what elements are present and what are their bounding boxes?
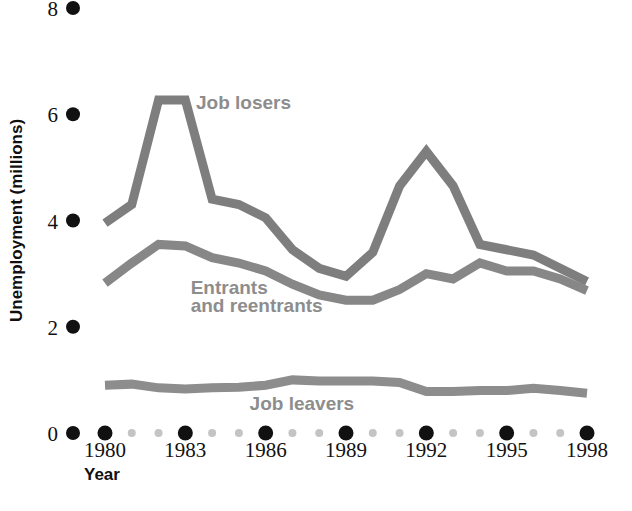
x-tick-dot-minor (396, 429, 404, 437)
x-tick-label: 1980 (84, 438, 126, 462)
x-tick-dot-minor (369, 429, 377, 437)
x-tick-label: 1992 (405, 438, 447, 462)
series-label-job-leavers: Job leavers (250, 393, 355, 414)
y-tick-label: 4 (48, 210, 59, 234)
x-tick-label: 1986 (245, 438, 287, 462)
x-tick-dot-minor (556, 429, 564, 437)
x-tick-dot-minor (235, 429, 243, 437)
series-label-entrants-line2: and reentrants (191, 295, 323, 316)
y-tick-label: 2 (48, 316, 59, 340)
y-axis-title: Unemployment (millions) (7, 119, 26, 322)
y-tick-label: 8 (48, 0, 59, 21)
series-label-job-losers: Job losers (196, 92, 291, 113)
x-tick-label: 1983 (164, 438, 206, 462)
y-tick-dot (66, 214, 80, 228)
x-tick-dot-minor (208, 429, 216, 437)
x-tick-dot-minor (449, 429, 457, 437)
x-tick-dot-minor (128, 429, 136, 437)
x-tick-dot-minor (315, 429, 323, 437)
x-tick-dot-minor (288, 429, 296, 437)
chart-canvas: 02468 1980198319861989199219951998 Unemp… (0, 0, 632, 511)
x-tick-dot-minor (529, 429, 537, 437)
x-tick-label: 1995 (486, 438, 528, 462)
y-tick-label: 6 (48, 103, 59, 127)
x-tick-dot-minor (155, 429, 163, 437)
x-tick-label: 1989 (325, 438, 367, 462)
x-tick-label: 1998 (566, 438, 608, 462)
y-tick-dot (66, 107, 80, 121)
x-axis-title: Year (84, 465, 120, 484)
unemployment-line-chart: 02468 1980198319861989199219951998 Unemp… (0, 0, 632, 511)
y-tick-label: 0 (48, 422, 59, 446)
y-tick-dot (66, 426, 80, 440)
y-tick-dot (66, 320, 80, 334)
x-tick-dot-minor (476, 429, 484, 437)
y-tick-dot (66, 1, 80, 15)
